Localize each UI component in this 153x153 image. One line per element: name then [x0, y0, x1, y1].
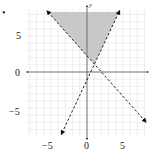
- x-tick-5: 5: [120, 140, 125, 151]
- x-tick-0: 0: [84, 140, 89, 151]
- inequality-graph: • y 5 0 −5 −5 0 5: [0, 0, 153, 153]
- bullet-marker: •: [2, 7, 6, 18]
- y-tick-minus5: −5: [9, 106, 20, 117]
- y-tick-5: 5: [16, 30, 21, 41]
- y-tick-0: 0: [15, 67, 20, 78]
- x-tick-minus5: −5: [42, 140, 53, 151]
- y-axis-label: y: [88, 1, 93, 9]
